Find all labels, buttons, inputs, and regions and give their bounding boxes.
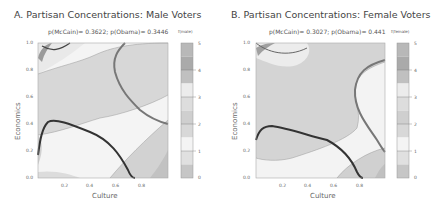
colorbar-tick: 2 — [198, 122, 201, 127]
x-tick: 0.2 — [279, 183, 286, 188]
colorbar — [181, 43, 196, 178]
y-axis-label: Economics — [14, 102, 22, 140]
panel-female: B. Partisan Concentrations: Female Voter… — [217, 0, 433, 212]
colorbar-tick: 3 — [198, 95, 201, 100]
y-tick: 0.8 — [26, 67, 33, 72]
x-tick: 0.4 — [304, 183, 311, 188]
x-axis-label: Culture — [92, 192, 117, 200]
colorbar-tick: 4 — [198, 68, 201, 73]
y-tick: 0.0 — [243, 175, 250, 180]
colorbar — [397, 43, 412, 178]
y-tick: 0.2 — [243, 148, 250, 153]
y-tick: 0.4 — [26, 121, 33, 126]
contour-plot — [217, 0, 433, 212]
y-tick: 0.8 — [243, 67, 250, 72]
x-axis-label: Culture — [310, 192, 335, 200]
colorbar-tick: 2 — [414, 122, 417, 127]
colorbar-tick: 0 — [198, 175, 201, 180]
y-tick: 1.0 — [243, 40, 250, 45]
x-tick: 0.2 — [61, 183, 68, 188]
colorbar-tick: 5 — [414, 41, 417, 46]
x-tick: 0.6 — [112, 183, 119, 188]
panel-male: A. Partisan Concentrations: Male Voters … — [0, 0, 216, 212]
y-tick: 0.6 — [243, 94, 250, 99]
y-tick: 0.0 — [26, 175, 33, 180]
colorbar-tick: 0 — [414, 175, 417, 180]
contour-plot — [0, 0, 216, 212]
y-tick: 0.4 — [243, 121, 250, 126]
x-tick: 0.8 — [138, 183, 145, 188]
x-tick: 0.4 — [86, 183, 93, 188]
y-tick: 0.2 — [26, 148, 33, 153]
colorbar-tick: 4 — [414, 68, 417, 73]
colorbar-tick: 1 — [198, 149, 201, 154]
x-tick: 0.6 — [330, 183, 337, 188]
y-tick: 0.6 — [26, 94, 33, 99]
y-axis-label: Economics — [231, 102, 239, 140]
colorbar-tick: 3 — [414, 95, 417, 100]
y-tick: 1.0 — [26, 40, 33, 45]
colorbar-tick: 1 — [414, 149, 417, 154]
colorbar-tick: 5 — [198, 41, 201, 46]
x-tick: 0.8 — [356, 183, 363, 188]
